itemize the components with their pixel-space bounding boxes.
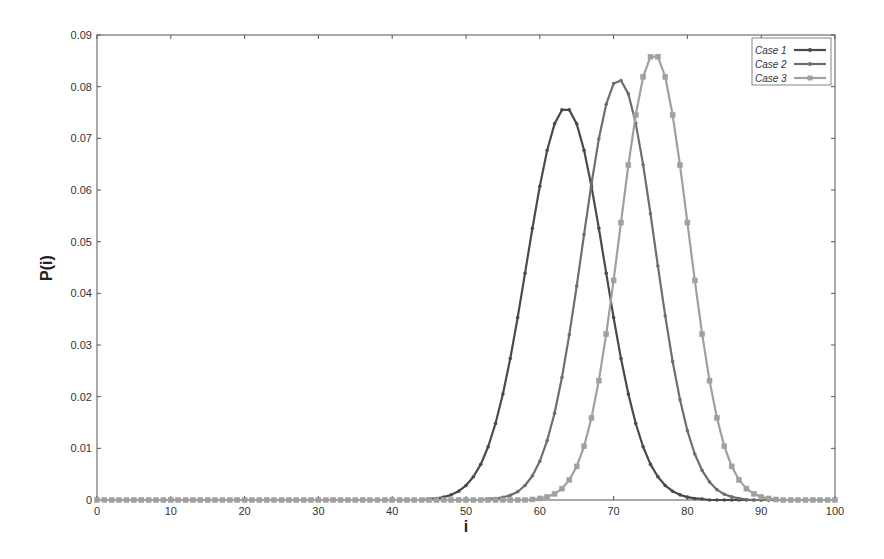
data-point: [375, 498, 380, 503]
x-tick-label: 50: [460, 505, 472, 517]
data-point: [567, 477, 572, 482]
data-point: [213, 498, 218, 503]
data-point: [494, 422, 498, 426]
data-point: [678, 163, 683, 168]
data-point: [715, 488, 719, 492]
x-tick-label: 90: [755, 505, 767, 517]
data-point: [183, 498, 188, 503]
data-point: [353, 498, 358, 503]
data-point: [552, 491, 557, 496]
data-point: [560, 108, 564, 112]
data-point: [671, 489, 675, 493]
data-point: [146, 498, 151, 503]
data-point: [604, 102, 608, 106]
data-point: [825, 498, 830, 503]
x-tick-label: 70: [607, 505, 619, 517]
data-point: [649, 463, 653, 467]
data-point: [249, 498, 254, 503]
legend-dot-marker-icon: [808, 48, 812, 52]
data-point: [671, 360, 675, 364]
x-tick-label: 10: [165, 505, 177, 517]
data-point: [663, 74, 668, 79]
data-point: [568, 108, 572, 112]
data-point: [508, 357, 512, 361]
data-point: [242, 498, 247, 503]
data-point: [227, 498, 232, 503]
x-axis-label: i: [464, 518, 468, 535]
data-point: [419, 498, 424, 503]
legend: Case 1Case 2Case 3: [752, 38, 831, 85]
data-point: [404, 498, 409, 503]
data-point: [611, 278, 616, 283]
data-point: [294, 498, 299, 503]
y-tick-label: 0.08: [71, 81, 92, 93]
data-point: [633, 113, 638, 118]
x-tick-label: 20: [238, 505, 250, 517]
data-point: [730, 498, 734, 502]
x-tick-label: 30: [312, 505, 324, 517]
data-point: [693, 452, 697, 456]
data-point: [722, 444, 727, 449]
data-point: [449, 493, 453, 497]
data-point: [737, 497, 741, 501]
y-tick-label: 0.04: [71, 287, 92, 299]
data-point: [568, 333, 572, 337]
data-point: [464, 484, 468, 488]
data-point: [531, 226, 535, 230]
data-point: [656, 264, 660, 268]
data-point: [810, 498, 815, 503]
data-point: [139, 498, 144, 503]
data-point: [538, 185, 542, 189]
data-point: [781, 498, 786, 503]
data-point: [589, 415, 594, 420]
data-point: [693, 497, 697, 501]
data-point: [545, 148, 549, 152]
data-point: [545, 494, 550, 499]
data-point: [634, 422, 638, 426]
data-point: [560, 376, 564, 380]
data-point: [198, 498, 203, 503]
data-point: [833, 498, 838, 503]
data-point: [257, 498, 262, 503]
data-point: [464, 498, 469, 503]
data-point: [574, 464, 579, 469]
data-point: [412, 498, 417, 503]
data-point: [627, 92, 631, 96]
data-point: [596, 378, 601, 383]
data-point: [220, 498, 225, 503]
data-point: [95, 498, 100, 503]
data-point: [707, 378, 712, 383]
y-tick-label: 0.09: [71, 29, 92, 41]
data-point: [604, 332, 609, 337]
data-point: [619, 357, 623, 361]
data-point: [766, 496, 771, 501]
data-point: [109, 498, 114, 503]
data-point: [582, 444, 587, 449]
y-tick-label: 0.07: [71, 132, 92, 144]
data-point: [656, 475, 660, 479]
data-point: [773, 497, 778, 502]
legend-label: Case 3: [755, 73, 787, 84]
data-point: [286, 498, 291, 503]
data-point: [264, 498, 269, 503]
data-point: [559, 486, 564, 491]
y-tick-label: 0: [86, 494, 92, 506]
data-point: [700, 497, 704, 501]
data-point: [723, 493, 727, 497]
data-point: [508, 494, 512, 498]
data-point: [618, 220, 623, 225]
x-tick-label: 40: [386, 505, 398, 517]
legend-square-marker-icon: [808, 76, 813, 81]
data-point: [803, 498, 808, 503]
data-point: [500, 498, 505, 503]
data-point: [390, 498, 395, 503]
data-point: [641, 445, 645, 449]
data-point: [301, 498, 306, 503]
data-point: [538, 459, 542, 463]
data-point: [597, 226, 601, 230]
data-point: [176, 498, 181, 503]
data-point: [686, 495, 690, 499]
data-point: [759, 494, 764, 499]
data-point: [752, 498, 756, 502]
data-point: [523, 498, 528, 503]
